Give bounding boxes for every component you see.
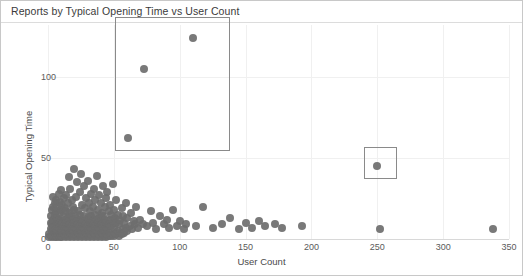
title-divider [1,22,523,23]
x-axis-tick-label: 200 [304,242,319,252]
scatter-point [132,203,140,211]
scatter-point [66,185,74,193]
y-axis-tick-label: 0 [41,234,46,244]
scatter-point [93,172,101,180]
plot-area [48,25,509,239]
y-axis-tick-label: 50 [41,153,51,163]
scatter-point [84,177,92,185]
scatter-point [248,224,256,232]
x-axis-tick-label: 0 [45,242,50,252]
x-axis-tick-label: 50 [109,242,119,252]
x-gridline [443,25,444,239]
scatter-point [169,206,177,214]
y-axis-label-wrap: Typical Opening Time [12,61,26,201]
scatter-point [112,196,120,204]
x-gridline [509,25,510,239]
x-gridline [311,25,312,239]
x-axis-label: User Count [1,256,522,267]
scatter-point [209,224,217,232]
x-gridline [377,25,378,239]
scatter-point [278,224,286,232]
scatter-point [182,220,190,228]
scatter-point [376,225,384,233]
scatter-point [163,216,171,224]
scatter-point [218,220,226,228]
scatter-point [152,225,160,233]
scatter-point [147,207,155,215]
y-gridline [48,158,509,159]
page-title: Reports by Typical Opening Time vs User … [11,5,239,17]
x-gridline [246,25,247,239]
scatter-point [271,220,279,228]
x-axis-tick-label: 350 [501,242,516,252]
scatter-point [77,170,85,178]
y-axis-label: Typical Opening Time [23,87,34,227]
scatter-point [165,224,173,232]
scatter-point [226,214,234,222]
scatter-point [122,199,130,207]
outlier-single-box[interactable] [364,147,397,179]
scatter-point [103,188,111,196]
y-axis-tick-label: 100 [41,72,56,82]
chart-container: Reports by Typical Opening Time vs User … [0,0,523,276]
scatter-point [192,222,200,230]
scatter-point [65,173,73,181]
outlier-cluster-box[interactable] [115,17,230,152]
scatter-point [261,222,269,230]
x-axis-tick-label: 100 [172,242,187,252]
x-axis-tick-label: 300 [436,242,451,252]
x-axis-tick-label: 250 [370,242,385,252]
scatter-point [109,180,117,188]
scatter-point [199,203,207,211]
x-axis-tick-label: 150 [238,242,253,252]
scatter-point [298,222,306,230]
scatter-point [235,225,243,233]
scatter-point [489,225,497,233]
